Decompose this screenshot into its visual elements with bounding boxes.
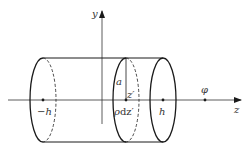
dz-prime-symbol: dz′ [120, 106, 135, 117]
radius-a-label: a [116, 76, 122, 87]
point-phi [204, 99, 207, 102]
y-axis-label: y [91, 8, 98, 19]
h-label: h [159, 106, 165, 117]
z-axis-label: z [233, 104, 240, 115]
point-h [162, 99, 165, 102]
rho-dz-label: ρdz′ [113, 106, 135, 117]
z-prime-label: z′ [126, 89, 135, 100]
phi-label: φ [201, 84, 208, 95]
minus-h-label: −h [37, 106, 52, 117]
cylinder-diagram: y z −h h φ a z′ ρdz′ [0, 0, 247, 152]
point-minus-h [42, 99, 45, 102]
